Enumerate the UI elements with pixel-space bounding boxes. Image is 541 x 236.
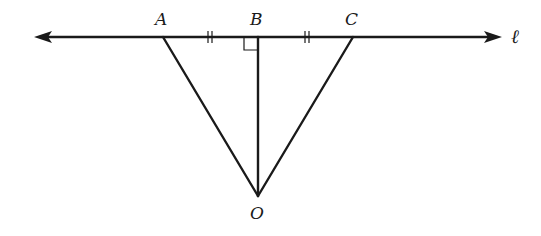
geometry-diagram: A B C O ℓ [0, 0, 541, 236]
label-line-l: ℓ [511, 25, 519, 47]
right-angle-marker [244, 37, 258, 50]
label-C: C [345, 9, 358, 29]
label-B: B [249, 9, 263, 29]
label-A: A [153, 9, 167, 29]
segment-OC [258, 37, 353, 196]
segment-OA [163, 37, 258, 196]
label-O: O [250, 203, 264, 223]
